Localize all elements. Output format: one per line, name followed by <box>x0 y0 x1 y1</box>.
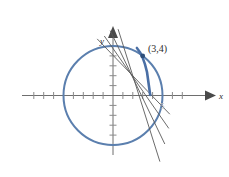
tangency-point-marker <box>140 54 145 59</box>
y-axis-label: y <box>99 36 104 46</box>
math-figure: (3,4) x y 5 <box>0 0 229 177</box>
x-axis-label: x <box>218 91 223 101</box>
x-axis-arrowhead <box>205 91 216 101</box>
coordinate-plane-svg: (3,4) x y 5 <box>0 0 229 177</box>
x-intercept-label: 5 <box>160 101 165 111</box>
point-label: (3,4) <box>148 43 167 55</box>
